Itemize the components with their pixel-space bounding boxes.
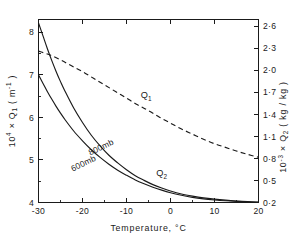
x-axis-title: Temperature, °C xyxy=(110,223,186,233)
axes-frame xyxy=(39,20,259,203)
ytick-right-label: 2·0 xyxy=(263,65,276,75)
curve-labels: Q1Q2800mb600mb xyxy=(69,90,167,179)
xtick-label: 10 xyxy=(209,206,219,216)
curve-label-q2: Q2 xyxy=(156,168,167,179)
ytick-left-label: 5 xyxy=(29,155,34,165)
ytick-right-label: 1·7 xyxy=(263,87,276,97)
ytick-right-label: 2·6 xyxy=(263,21,276,31)
xtick-label: -10 xyxy=(120,206,133,216)
ytick-right-label: 0·8 xyxy=(263,154,276,164)
ytick-left-label: 8 xyxy=(29,27,34,37)
ytick-left-label: 6 xyxy=(29,113,34,123)
xtick-label: 0 xyxy=(168,206,173,216)
data-curves xyxy=(39,23,259,202)
ytick-right-label: 0·2 xyxy=(263,198,276,208)
ytick-left-label: 4 xyxy=(29,198,34,208)
plot-frame xyxy=(39,20,259,203)
curve-q2-800mb xyxy=(39,23,259,202)
y-axis-title-left: 104 × Q1 ( m-1 ) xyxy=(5,75,18,148)
pressure-label-600mb: 600mb xyxy=(69,153,97,174)
xtick-label: -20 xyxy=(76,206,89,216)
chart-svg: -30-20-1001020456780·20·50·81·11·41·72·0… xyxy=(0,0,297,239)
curve-label-q1: Q1 xyxy=(141,90,152,101)
figure-container: -30-20-1001020456780·20·50·81·11·41·72·0… xyxy=(0,0,297,239)
ytick-left-label: 7 xyxy=(29,70,34,80)
y-axis-title-right: 10-3 × Q2 ( kg / kg ) xyxy=(277,81,290,173)
ytick-right-label: 0·5 xyxy=(263,176,276,186)
axis-ticks xyxy=(39,20,259,203)
ytick-right-label: 1·1 xyxy=(263,132,276,142)
ytick-right-label: 1·4 xyxy=(263,110,276,120)
ytick-right-label: 2·3 xyxy=(263,43,276,53)
